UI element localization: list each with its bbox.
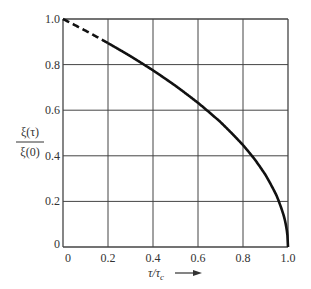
- y-tick-label: 0.6: [45, 103, 60, 117]
- x-tick-label: 0: [65, 251, 71, 265]
- x-tick-label: 1.0: [281, 251, 296, 265]
- chart: 00.20.40.60.81.0 00.20.40.60.81.0 ξ(τ) ξ…: [0, 0, 311, 289]
- grid-lines: [63, 19, 288, 247]
- x-tick-label: 0.8: [236, 251, 251, 265]
- y-tick-label: 0.8: [45, 58, 60, 72]
- x-tick-label: 0.6: [191, 251, 206, 265]
- arrow-right-icon: [193, 270, 202, 276]
- y-tick-label: 0.4: [45, 149, 60, 163]
- y-label-denominator: ξ(0): [20, 145, 39, 159]
- x-tick-label: 0.2: [101, 251, 116, 265]
- y-label-numerator: ξ(τ): [21, 125, 39, 139]
- x-tick-label: 0.4: [146, 251, 161, 265]
- curve-dashed-segment: [63, 19, 108, 43]
- y-tick-label: 0.2: [45, 194, 60, 208]
- y-tick-label: 0: [54, 237, 60, 251]
- y-axis-label: ξ(τ) ξ(0): [16, 125, 44, 159]
- y-axis-ticks: 00.20.40.60.81.0: [45, 12, 60, 251]
- y-tick-label: 1.0: [45, 12, 60, 26]
- x-axis-label: τ/τc: [148, 266, 202, 282]
- x-axis-ticks: 00.20.40.60.81.0: [65, 251, 296, 265]
- x-label-text: τ/τc: [148, 266, 164, 282]
